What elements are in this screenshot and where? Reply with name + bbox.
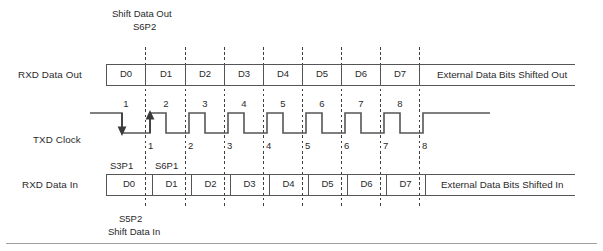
rxd-out-cell: D0 [106,69,146,79]
rxd-out-cell: D6 [341,69,381,79]
rxd-in-cell: D4 [269,179,308,189]
annotation-shift-data-in-line1: S5P2 [119,213,142,225]
rxd-in-cell: D2 [191,179,230,189]
clock-pulse-number-bottom: 6 [344,141,349,151]
clock-pulse-number-top: 8 [380,99,420,109]
rxd-out-cell: D4 [263,69,303,79]
annotation-shift-data-out-line1: Shift Data Out [112,8,172,20]
rxd-in-cell: D6 [347,179,386,189]
rxd-out-cell: D5 [302,69,342,79]
rxd-out-cell: D3 [224,69,264,79]
clock-pulse-number-top: 3 [185,99,225,109]
rxd-out-cell: D1 [146,69,186,79]
row-label-txd-clock: TXD Clock [33,134,81,145]
clock-pulse-number-top: 6 [302,99,342,109]
annotation-s6p1: S6P1 [155,160,178,172]
rxd-out-trailing-text: External Data Bits Shifted Out [437,69,567,80]
annotation-s3p1: S3P1 [110,160,133,172]
rxd-out-cell: D7 [380,69,420,79]
clock-pulse-number-top: 1 [106,99,146,109]
rxd-in-cell: D3 [230,179,269,189]
row-label-rxd-data-in: RXD Data In [22,179,78,190]
clock-pulse-number-bottom: 7 [383,141,388,151]
rxd-in-trailing-text: External Data Bits Shifted In [441,179,564,190]
rxd-out-cell: D2 [185,69,225,79]
clock-pulse-number-bottom: 8 [422,141,427,151]
rxd-in-cell: D5 [308,179,347,189]
clock-pulse-number-bottom: 1 [148,141,153,151]
clock-pulse-number-top: 5 [263,99,303,109]
clock-pulse-number-bottom: 5 [305,141,310,151]
timing-waveform-svg [0,0,603,251]
clock-pulse-number-top: 2 [146,99,186,109]
timing-diagram: Shift Data Out S6P2 RXD Data Out TXD Clo… [0,0,603,251]
annotation-shift-data-out-line2: S6P2 [133,21,156,33]
clock-pulse-number-bottom: 3 [227,141,232,151]
row-label-rxd-data-out: RXD Data Out [18,69,82,80]
clock-pulse-number-bottom: 4 [266,141,271,151]
clock-pulse-number-top: 7 [341,99,381,109]
clock-pulse-number-top: 4 [224,99,264,109]
rxd-in-cell: D0 [106,179,152,189]
rxd-in-cell: D1 [152,179,191,189]
clock-pulse-number-bottom: 2 [188,141,193,151]
annotation-shift-data-in-line2: Shift Data In [108,226,160,238]
rxd-in-cell: D7 [386,179,425,189]
